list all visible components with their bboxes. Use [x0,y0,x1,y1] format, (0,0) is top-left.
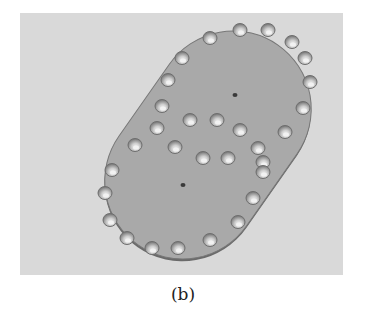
outer-hole [105,164,119,177]
outer-hole [150,122,164,135]
outer-hole [233,24,247,37]
outer-hole [278,126,292,139]
outer-hole [161,74,175,87]
inner-hole [210,114,224,127]
outer-hole [155,100,169,113]
inner-hole [256,166,270,179]
outer-hole [171,242,185,255]
outer-hole [98,187,112,200]
outer-hole [296,102,310,115]
inner-hole [251,142,265,155]
figure-panel [20,13,343,275]
outer-hole [203,234,217,247]
center-marker [233,93,238,97]
outer-hole [285,36,299,49]
inner-hole [168,141,182,154]
figure-caption: (b) [0,284,366,304]
outer-hole [231,216,245,229]
outer-hole [298,52,312,65]
outer-hole [203,32,217,45]
outer-hole [261,24,275,37]
outer-hole [103,214,117,227]
outer-hole [175,52,189,65]
plate-render [20,13,343,275]
inner-hole [233,124,247,137]
inner-hole [196,152,210,165]
outer-hole [246,192,260,205]
outer-hole [145,242,159,255]
inner-hole [221,152,235,165]
center-marker [181,183,186,187]
inner-hole [183,114,197,127]
outer-hole [303,76,317,89]
outer-hole [128,139,142,152]
outer-hole [120,232,134,245]
